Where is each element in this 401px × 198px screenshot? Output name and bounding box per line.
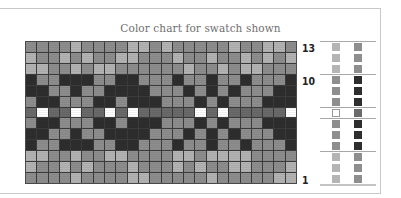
- chart-cell: [49, 97, 59, 107]
- chart-cell: [128, 97, 138, 107]
- chart-cell: [263, 42, 273, 52]
- legend-swatch: [332, 87, 340, 95]
- chart-cell: [139, 162, 149, 172]
- chart-cell: [49, 129, 59, 139]
- chart-cell: [218, 173, 228, 183]
- chart-cell: [286, 86, 296, 96]
- chart-cell: [26, 64, 36, 74]
- chart-cell: [60, 97, 70, 107]
- chart-cell: [82, 53, 92, 63]
- legend-divider: [320, 184, 376, 186]
- chart-cell: [128, 173, 138, 183]
- chart-cell: [60, 53, 70, 63]
- chart-cell: [150, 129, 160, 139]
- chart-title: Color chart for swatch shown: [0, 22, 401, 34]
- chart-cell: [49, 162, 59, 172]
- legend-swatch: [332, 175, 340, 183]
- chart-cell: [150, 151, 160, 161]
- chart-cell: [252, 64, 262, 74]
- chart-cell: [71, 140, 81, 150]
- chart-cell: [274, 118, 284, 128]
- chart-cell: [286, 151, 296, 161]
- chart-cell: [229, 42, 239, 52]
- chart-cell: [173, 64, 183, 74]
- chart-cell: [241, 151, 251, 161]
- chart-cell: [150, 64, 160, 74]
- chart-cell: [252, 140, 262, 150]
- chart-cell: [82, 108, 92, 118]
- chart-cell: [241, 53, 251, 63]
- chart-cell: [128, 64, 138, 74]
- chart-cell: [162, 97, 172, 107]
- chart-cell: [94, 140, 104, 150]
- chart-cell: [184, 86, 194, 96]
- legend-swatch: [354, 120, 362, 128]
- chart-cell: [218, 162, 228, 172]
- chart-cell: [150, 42, 160, 52]
- legend-divider: [320, 41, 376, 42]
- chart-cell: [252, 53, 262, 63]
- chart-cell: [252, 129, 262, 139]
- chart-cell: [173, 151, 183, 161]
- chart-cell: [71, 129, 81, 139]
- chart-cell: [60, 140, 70, 150]
- legend-swatch: [354, 153, 362, 161]
- chart-cell: [195, 53, 205, 63]
- chart-cell: [26, 42, 36, 52]
- chart-cell: [26, 97, 36, 107]
- chart-cell: [263, 162, 273, 172]
- chart-cell: [37, 162, 47, 172]
- chart-cell: [274, 129, 284, 139]
- chart-cell: [139, 97, 149, 107]
- chart-cell: [173, 118, 183, 128]
- chart-cell: [241, 75, 251, 85]
- chart-cell: [162, 86, 172, 96]
- chart-cell: [139, 173, 149, 183]
- chart-cell: [150, 108, 160, 118]
- chart-cell: [60, 86, 70, 96]
- legend-swatch: [354, 175, 362, 183]
- chart-cell: [60, 75, 70, 85]
- chart-cell: [60, 118, 70, 128]
- chart-cell: [184, 118, 194, 128]
- chart-cell: [116, 53, 126, 63]
- chart-cell: [128, 140, 138, 150]
- chart-cell: [60, 42, 70, 52]
- chart-cell: [26, 75, 36, 85]
- legend-swatch: [332, 109, 340, 117]
- legend-swatch: [332, 142, 340, 150]
- chart-cell: [105, 162, 115, 172]
- chart-cell: [286, 108, 296, 118]
- chart-cell: [26, 118, 36, 128]
- chart-cell: [218, 118, 228, 128]
- chart-cell: [263, 129, 273, 139]
- chart-cell: [173, 173, 183, 183]
- chart-cell: [150, 173, 160, 183]
- chart-cell: [128, 162, 138, 172]
- chart-cell: [184, 140, 194, 150]
- chart-cell: [229, 53, 239, 63]
- chart-cell: [263, 140, 273, 150]
- chart-cell: [274, 86, 284, 96]
- chart-cell: [116, 151, 126, 161]
- chart-cell: [116, 42, 126, 52]
- chart-cell: [26, 86, 36, 96]
- chart-cell: [162, 42, 172, 52]
- chart-cell: [94, 53, 104, 63]
- chart-cell: [26, 129, 36, 139]
- chart-cell: [71, 53, 81, 63]
- chart-cell: [218, 97, 228, 107]
- chart-cell: [286, 64, 296, 74]
- chart-cell: [274, 151, 284, 161]
- chart-cell: [241, 86, 251, 96]
- chart-cell: [218, 75, 228, 85]
- chart-cell: [229, 173, 239, 183]
- chart-cell: [195, 162, 205, 172]
- chart-cell: [105, 151, 115, 161]
- chart-cell: [218, 86, 228, 96]
- chart-cell: [37, 173, 47, 183]
- legend-swatch: [332, 120, 340, 128]
- chart-cell: [263, 64, 273, 74]
- chart-cell: [173, 129, 183, 139]
- chart-cell: [252, 75, 262, 85]
